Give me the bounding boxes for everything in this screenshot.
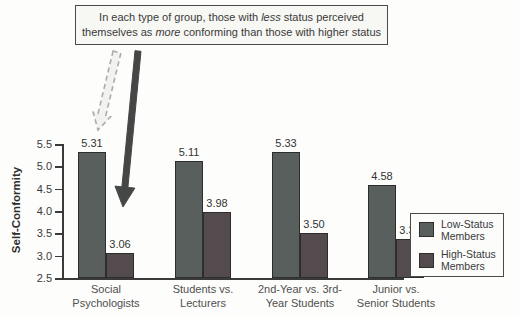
y-axis-tick-label: 4.5	[28, 183, 52, 195]
y-axis-tick-label: 5.0	[28, 160, 52, 172]
annotation-callout: In each type of group, those with less s…	[75, 5, 388, 45]
bar-value-label: 5.33	[266, 137, 306, 149]
y-axis-tick-label: 3.0	[28, 250, 52, 262]
x-axis-line	[62, 278, 404, 280]
x-category-label: SocialPsychologists	[51, 283, 161, 311]
legend-item-low-status: Low-StatusMembers	[419, 218, 503, 242]
y-axis-tick	[55, 211, 62, 213]
bar-high-status	[106, 253, 134, 278]
bar-value-label: 3.98	[197, 197, 237, 209]
bar-value-label: 4.58	[362, 170, 402, 182]
bar-value-label: 5.11	[169, 146, 209, 158]
dashed-arrow	[93, 51, 121, 130]
bar-low-status	[78, 152, 106, 278]
y-axis-tick	[55, 256, 62, 258]
high-status-swatch	[419, 253, 434, 268]
annotation-line-1: In each type of group, those with less s…	[99, 10, 364, 25]
y-axis-tick-label: 5.5	[28, 138, 52, 150]
legend-item-high-status: High-StatusMembers	[419, 248, 503, 272]
bar-low-status	[175, 161, 203, 278]
bar-value-label: 5.31	[72, 137, 112, 149]
bar-high-status	[203, 212, 231, 278]
bar-low-status	[272, 152, 300, 278]
y-axis-tick	[55, 166, 62, 168]
y-axis-tick-label: 4.0	[28, 205, 52, 217]
solid-arrow	[115, 51, 141, 207]
bar-value-label: 3.06	[100, 238, 140, 250]
y-axis-tick-label: 3.5	[28, 227, 52, 239]
y-axis-tick	[55, 278, 62, 280]
y-axis-tick	[55, 233, 62, 235]
y-axis-tick	[55, 144, 62, 146]
conformity-bar-chart-figure: In each type of group, those with less s…	[0, 0, 520, 317]
y-axis-tick	[55, 189, 62, 191]
bar-high-status	[300, 233, 328, 278]
x-category-label: 2nd-Year vs. 3rd-Year Students	[245, 283, 355, 311]
y-axis-title: Self-Conformity	[10, 150, 22, 270]
annotation-line-2: themselves as more conforming than those…	[82, 25, 381, 40]
x-category-label: Students vs.Lecturers	[148, 283, 258, 311]
bar-value-label: 3.50	[294, 218, 334, 230]
y-axis-tick-label: 2.5	[28, 272, 52, 284]
y-axis-line	[62, 144, 64, 278]
x-category-label: Junior vs.Senior Students	[341, 283, 451, 311]
legend: Low-StatusMembers High-StatusMembers	[410, 213, 504, 277]
low-status-swatch	[419, 222, 434, 237]
